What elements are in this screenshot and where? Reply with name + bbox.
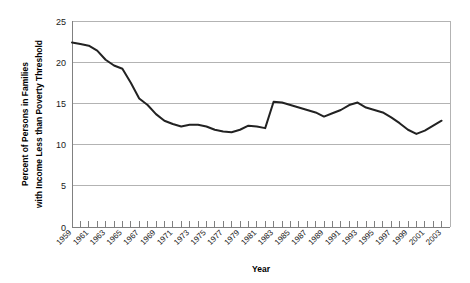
xtick-label-1969: 1969: [138, 228, 157, 247]
xtick-label-1977: 1977: [206, 228, 225, 247]
y-axis-title-line2: with Income Less than Poverty Threshold: [34, 40, 44, 209]
xtick-label-1983: 1983: [256, 228, 275, 247]
xtick-label-2003: 2003: [424, 228, 443, 247]
xtick-label-1999: 1999: [390, 228, 409, 247]
xtick-label-1967: 1967: [122, 228, 141, 247]
ytick-label-5: 5: [61, 181, 66, 191]
xtick-label-1979: 1979: [222, 228, 241, 247]
xtick-label-1971: 1971: [155, 228, 174, 247]
xtick-label-1991: 1991: [323, 228, 342, 247]
xtick-label-1959: 1959: [54, 228, 73, 247]
y-axis-title-line1: Percent of Persons in Families: [20, 62, 30, 186]
xtick-label-1987: 1987: [290, 228, 309, 247]
xtick-label-1975: 1975: [189, 228, 208, 247]
chart-canvas: 0510152025195919611963196519671969197119…: [0, 0, 470, 283]
ytick-label-15: 15: [56, 99, 66, 109]
xtick-label-1989: 1989: [306, 228, 325, 247]
ytick-label-25: 25: [56, 17, 66, 27]
xtick-label-1963: 1963: [88, 228, 107, 247]
xtick-label-1973: 1973: [172, 228, 191, 247]
poverty-rate-line-chart: 0510152025195919611963196519671969197119…: [0, 0, 470, 283]
ytick-label-10: 10: [56, 140, 66, 150]
xtick-label-1965: 1965: [105, 228, 124, 247]
xtick-label-1985: 1985: [273, 228, 292, 247]
xtick-label-1995: 1995: [357, 228, 376, 247]
x-axis-title: Year: [252, 264, 271, 274]
xtick-label-1993: 1993: [340, 228, 359, 247]
xtick-label-1981: 1981: [239, 228, 258, 247]
ytick-label-20: 20: [56, 58, 66, 68]
xtick-label-2001: 2001: [407, 228, 426, 247]
data-series-line: [72, 42, 442, 133]
xtick-label-1997: 1997: [374, 228, 393, 247]
xtick-label-1961: 1961: [71, 228, 90, 247]
